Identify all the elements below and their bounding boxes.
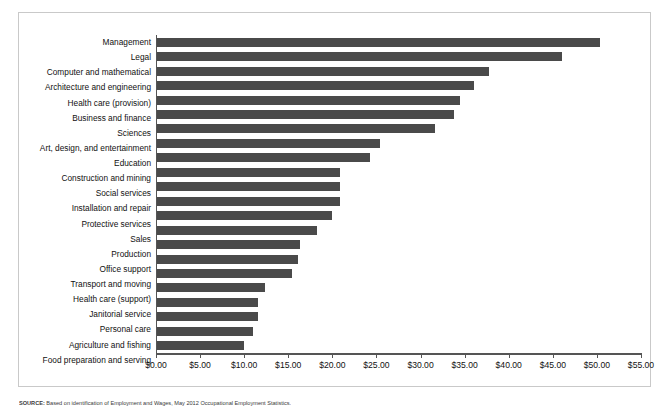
bar-row — [157, 324, 641, 338]
bar-row — [157, 35, 641, 49]
bar-row — [157, 339, 641, 353]
bar — [157, 269, 292, 278]
axis-tick-mark — [553, 353, 554, 358]
plot-area — [156, 35, 641, 353]
category-label: Agriculture and fishing — [19, 338, 156, 353]
bar — [157, 139, 380, 148]
bar-row — [157, 122, 641, 136]
bar — [157, 81, 474, 90]
bar-row — [157, 252, 641, 266]
category-label: Personal care — [19, 322, 156, 337]
axis-tick-label: $30.00 — [407, 360, 433, 370]
bar — [157, 182, 340, 191]
bar — [157, 226, 317, 235]
category-label: Construction and mining — [19, 171, 156, 186]
bar-row — [157, 208, 641, 222]
value-axis: $0.00$5.00$10.00$15.00$20.00$25.00$30.00… — [156, 353, 641, 388]
axis-tick-label: $50.00 — [584, 360, 610, 370]
category-axis-labels: ManagementLegalComputer and mathematical… — [19, 35, 156, 353]
source-note: SOURCE: Based on identification of Emplo… — [19, 400, 291, 406]
axis-tick-label: $35.00 — [451, 360, 477, 370]
axis-tick-mark — [597, 353, 598, 358]
bar-row — [157, 223, 641, 237]
category-label: Social services — [19, 186, 156, 201]
bar-row — [157, 295, 641, 309]
category-label: Health care (support) — [19, 292, 156, 307]
category-label: Installation and repair — [19, 201, 156, 216]
axis-tick-label: $20.00 — [319, 360, 345, 370]
category-label: Office support — [19, 262, 156, 277]
bar-row — [157, 93, 641, 107]
category-label: Art, design, and entertainment — [19, 141, 156, 156]
axis-tick-mark — [156, 353, 157, 358]
axis-tick-mark — [465, 353, 466, 358]
axis-tick-mark — [288, 353, 289, 358]
axis-tick-mark — [244, 353, 245, 358]
category-label: Sciences — [19, 126, 156, 141]
category-label: Transport and moving — [19, 277, 156, 292]
axis-line — [156, 353, 641, 355]
bar — [157, 67, 489, 76]
bar-row — [157, 165, 641, 179]
axis-tick-label: $5.00 — [189, 360, 211, 370]
category-label: Sales — [19, 232, 156, 247]
bar — [157, 298, 258, 307]
bar — [157, 341, 244, 350]
axis-tick-label: $10.00 — [231, 360, 257, 370]
axis-tick-label: $0.00 — [145, 360, 167, 370]
category-label: Food preparation and serving — [19, 353, 156, 368]
bar-series — [157, 35, 641, 353]
axis-tick-mark — [641, 353, 642, 358]
axis-tick-label: $25.00 — [363, 360, 389, 370]
axis-tick-label: $40.00 — [496, 360, 522, 370]
bar — [157, 168, 340, 177]
bar-row — [157, 281, 641, 295]
category-label: Protective services — [19, 217, 156, 232]
axis-tick-mark — [200, 353, 201, 358]
category-label: Production — [19, 247, 156, 262]
bar-row — [157, 237, 641, 251]
category-label: Management — [19, 35, 156, 50]
bar — [157, 312, 258, 321]
axis-tick-mark — [376, 353, 377, 358]
bar — [157, 283, 265, 292]
bar — [157, 52, 562, 61]
bar — [157, 38, 600, 47]
bar — [157, 240, 300, 249]
figure-frame: ManagementLegalComputer and mathematical… — [18, 12, 651, 387]
bar-row — [157, 136, 641, 150]
bar — [157, 96, 460, 105]
bar-row — [157, 151, 641, 165]
bar-row — [157, 78, 641, 92]
bar — [157, 211, 332, 220]
bar-chart: ManagementLegalComputer and mathematical… — [19, 13, 652, 388]
axis-tick-mark — [509, 353, 510, 358]
category-label: Legal — [19, 50, 156, 65]
bar-row — [157, 107, 641, 121]
bar-row — [157, 64, 641, 78]
category-label: Business and finance — [19, 111, 156, 126]
bar — [157, 327, 253, 336]
category-label: Architecture and engineering — [19, 80, 156, 95]
category-label: Education — [19, 156, 156, 171]
category-label: Janitorial service — [19, 307, 156, 322]
axis-tick-mark — [332, 353, 333, 358]
bar-row — [157, 266, 641, 280]
source-label: SOURCE: — [19, 400, 45, 406]
bar-row — [157, 180, 641, 194]
axis-tick-label: $15.00 — [275, 360, 301, 370]
bar — [157, 197, 340, 206]
bar-row — [157, 49, 641, 63]
source-text: Based on identification of Employment an… — [46, 400, 291, 406]
axis-tick-mark — [421, 353, 422, 358]
bar — [157, 110, 454, 119]
bar-row — [157, 310, 641, 324]
bar — [157, 255, 298, 264]
category-label: Computer and mathematical — [19, 65, 156, 80]
bar-row — [157, 194, 641, 208]
axis-tick-label: $45.00 — [540, 360, 566, 370]
bar — [157, 153, 370, 162]
axis-tick-label: $55.00 — [628, 360, 654, 370]
bar — [157, 124, 435, 133]
category-label: Health care (provision) — [19, 96, 156, 111]
